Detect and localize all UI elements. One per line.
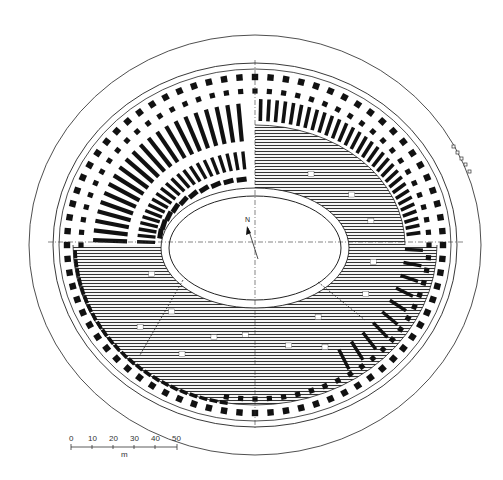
scale-tick-40: 40 bbox=[151, 434, 160, 443]
scale-tick-0: 0 bbox=[69, 434, 74, 443]
scale-tick-30: 30 bbox=[130, 434, 139, 443]
scale-unit: m bbox=[121, 450, 128, 459]
amphitheater-plan: N 0 10 20 30 40 50 m bbox=[0, 0, 503, 480]
boundary-markers bbox=[452, 145, 471, 173]
scale-tick-50: 50 bbox=[172, 434, 181, 443]
north-label: N bbox=[245, 216, 250, 223]
scale-tick-20: 20 bbox=[109, 434, 118, 443]
scale-tick-10: 10 bbox=[88, 434, 97, 443]
